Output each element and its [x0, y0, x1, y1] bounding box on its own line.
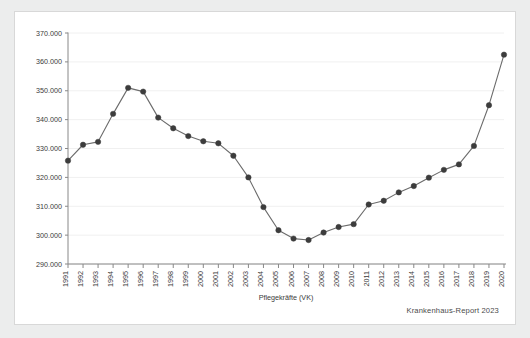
y-axis [65, 33, 68, 265]
data-point [140, 89, 145, 94]
data-point [80, 142, 85, 147]
x-tick-labels: 1991199219931994199519961997199819992000… [61, 271, 506, 287]
y-tick-label: 300.000 [36, 231, 62, 240]
y-tick-label: 370.000 [36, 29, 62, 38]
data-point [351, 221, 356, 226]
gridlines [68, 33, 504, 264]
y-tick-label: 290.000 [36, 260, 62, 269]
x-tick-label: 1997 [151, 271, 160, 287]
x-tick-label: 2004 [256, 271, 265, 287]
x-tick-label: 2006 [287, 271, 296, 287]
x-tick-label: 2015 [422, 271, 431, 287]
data-point [381, 198, 386, 203]
data-point [366, 202, 371, 207]
y-tick-label: 320.000 [36, 173, 62, 182]
data-point [321, 230, 326, 235]
x-axis-title-text: Pflegekräfte (VK) [259, 293, 314, 302]
y-tick-label: 360.000 [36, 57, 62, 66]
data-point [291, 236, 296, 241]
data-point [186, 133, 191, 138]
x-tick-label: 2019 [482, 271, 491, 287]
data-point [156, 115, 161, 120]
x-tick-label: 2014 [407, 271, 416, 287]
data-point [471, 143, 476, 148]
x-tick-label: 2001 [211, 271, 220, 287]
data-point [441, 167, 446, 172]
x-tick-label: 2008 [317, 271, 326, 287]
x-tick-label: 2018 [467, 271, 476, 287]
data-point [456, 162, 461, 167]
x-tick-label: 2013 [392, 271, 401, 287]
x-tick-label: 2011 [362, 271, 371, 286]
y-tick-labels: 290.000300.000310.000320.000330.000340.0… [36, 29, 62, 269]
data-point [261, 204, 266, 209]
x-tick-label: 2000 [196, 271, 205, 287]
data-point [306, 237, 311, 242]
source-note: Krankenhaus-Report 2023 [406, 306, 499, 315]
data-point [216, 141, 221, 146]
data-point [95, 139, 100, 144]
x-tick-label: 1998 [166, 271, 175, 287]
x-tick-label: 2003 [241, 271, 250, 287]
series-markers [65, 52, 506, 243]
x-tick-label: 2002 [226, 271, 235, 287]
x-tick-label: 1995 [121, 271, 130, 287]
y-tick-label: 330.000 [36, 144, 62, 153]
data-point [486, 102, 491, 107]
x-tick-label: 2020 [497, 271, 506, 287]
x-tick-label: 2010 [347, 271, 356, 287]
x-tick-label: 2005 [271, 271, 280, 287]
x-tick-label: 1992 [76, 271, 85, 287]
x-axis-title: Pflegekräfte (VK) [259, 293, 314, 302]
x-tick-label: 1994 [106, 271, 115, 287]
x-tick-label: 2009 [332, 271, 341, 287]
data-point [110, 111, 115, 116]
data-point [411, 183, 416, 188]
y-tick-label: 340.000 [36, 115, 62, 124]
x-tick-label: 1999 [181, 271, 190, 287]
data-point [276, 228, 281, 233]
x-tick-label: 1993 [91, 271, 100, 287]
data-point [125, 85, 130, 90]
data-point [396, 190, 401, 195]
y-tick-label: 350.000 [36, 86, 62, 95]
x-tick-label: 2017 [452, 271, 461, 287]
line-chart: 290.000300.000310.000320.000330.000340.0… [15, 12, 517, 326]
data-point [231, 153, 236, 158]
data-point [426, 175, 431, 180]
x-tick-label: 2012 [377, 271, 386, 287]
data-point [336, 224, 341, 229]
data-point [171, 126, 176, 131]
series-line [68, 55, 504, 240]
data-point [201, 139, 206, 144]
data-point [501, 52, 506, 57]
y-tick-label: 310.000 [36, 202, 62, 211]
x-tick-label: 2007 [302, 271, 311, 287]
data-point [246, 175, 251, 180]
chart-card: 290.000300.000310.000320.000330.000340.0… [14, 11, 516, 325]
screenshot-root: 290.000300.000310.000320.000330.000340.0… [0, 0, 530, 338]
x-tick-label: 1991 [61, 271, 70, 287]
x-tick-label: 2016 [437, 271, 446, 287]
data-point [65, 158, 70, 163]
x-axis [68, 264, 506, 268]
x-tick-label: 1996 [136, 271, 145, 287]
